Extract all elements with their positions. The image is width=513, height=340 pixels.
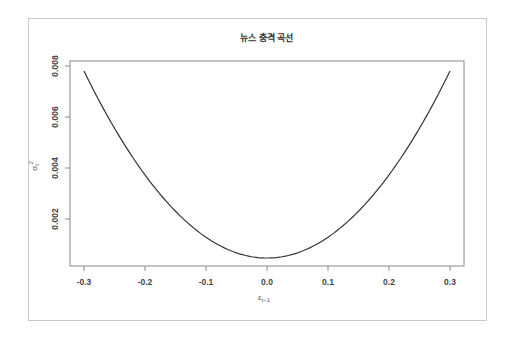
- chart-title: 뉴스 충격 곡선: [240, 32, 293, 43]
- y-axis: 0.0020.0040.0060.008: [50, 55, 70, 230]
- news-impact-chart: 뉴스 충격 곡선 -0.3-0.2-0.10.00.10.20.3 0.0020…: [0, 0, 513, 340]
- x-tick-label: 0.0: [261, 277, 273, 287]
- plot-area: [70, 61, 464, 266]
- x-tick-label: 0.3: [444, 277, 456, 287]
- news-impact-curve-line: [84, 71, 450, 258]
- x-tick-label: 0.2: [383, 277, 395, 287]
- y-tick-label: 0.006: [50, 106, 60, 128]
- svg-text:σt2: σt2: [28, 161, 40, 171]
- y-tick-label: 0.002: [50, 208, 60, 230]
- x-axis-label: εt−1: [258, 293, 271, 303]
- x-tick-label: -0.2: [138, 277, 153, 287]
- y-axis-label: σt2: [28, 161, 40, 171]
- x-tick-label: -0.3: [77, 277, 92, 287]
- y-tick-label: 0.004: [50, 157, 60, 179]
- x-tick-label: 0.1: [322, 277, 334, 287]
- x-tick-label: -0.1: [199, 277, 214, 287]
- x-axis: -0.3-0.2-0.10.00.10.20.3: [77, 266, 457, 287]
- y-tick-label: 0.008: [50, 55, 60, 77]
